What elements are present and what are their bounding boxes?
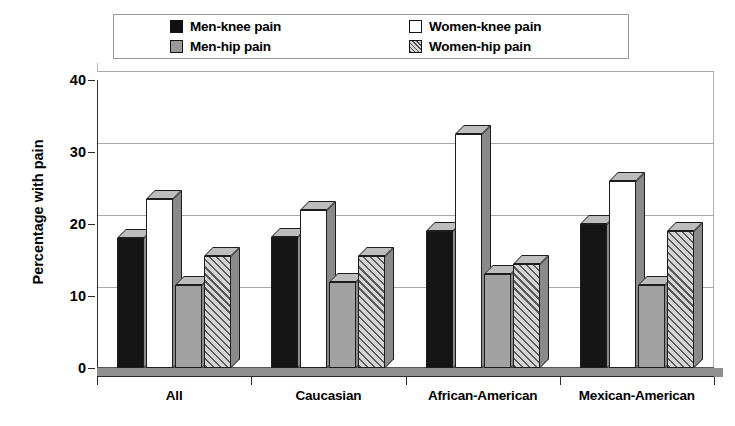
- bar-face: [358, 256, 385, 368]
- chart-legend: Men-knee pain Women-knee pain Men-hip pa…: [113, 14, 629, 59]
- bar-face: [667, 231, 694, 368]
- bar: [146, 199, 173, 368]
- hatched-square-swatch-icon: [409, 40, 422, 53]
- bar: [204, 256, 231, 368]
- bar-chart: Men-knee pain Women-knee pain Men-hip pa…: [0, 0, 735, 426]
- x-axis-label: All: [97, 388, 251, 412]
- bar-group: [406, 80, 560, 368]
- bar-face: [609, 181, 636, 368]
- legend-item-men-hip-pain: Men-hip pain: [114, 37, 371, 57]
- bar: [513, 264, 540, 368]
- gray-square-swatch-icon: [170, 40, 183, 53]
- bar: [329, 282, 356, 368]
- x-axis-label: Mexican-American: [560, 388, 714, 412]
- x-axis-tickmark: [560, 377, 561, 385]
- bar: [609, 181, 636, 368]
- y-axis-title: Percentage with pain: [30, 82, 46, 342]
- legend-label: Men-hip pain: [190, 39, 271, 54]
- bar-face: [638, 285, 665, 368]
- white-square-swatch-icon: [409, 20, 422, 33]
- bar-face: [484, 274, 511, 368]
- y-axis-tick-label: 0: [78, 360, 97, 376]
- gridline: [97, 71, 714, 72]
- y-axis-tick-label: 10: [70, 288, 97, 304]
- bar: [638, 285, 665, 368]
- x-axis-tickmark: [406, 377, 407, 385]
- black-square-swatch-icon: [170, 20, 183, 33]
- x-axis-tickmark: [714, 377, 715, 385]
- bar: [426, 231, 453, 368]
- bar-group: [560, 80, 714, 368]
- x-axis-tickmark: [251, 377, 252, 385]
- bar: [117, 238, 144, 368]
- x-axis-label: African-American: [406, 388, 560, 412]
- x-axis-tickmark: [97, 377, 98, 385]
- bar: [358, 256, 385, 368]
- x-axis-label: Caucasian: [251, 388, 405, 412]
- bar: [484, 274, 511, 368]
- legend-item-women-knee-pain: Women-knee pain: [371, 17, 628, 37]
- bar-face: [175, 285, 202, 368]
- bar: [667, 231, 694, 368]
- legend-label: Women-hip pain: [429, 39, 531, 54]
- legend-item-men-knee-pain: Men-knee pain: [114, 17, 371, 37]
- bar: [175, 285, 202, 368]
- bar-face: [455, 134, 482, 368]
- y-axis-tick-label: 40: [70, 72, 97, 88]
- x-axis-tickmarks: [97, 377, 714, 385]
- bar-face: [513, 264, 540, 368]
- legend-label: Men-knee pain: [190, 19, 281, 34]
- x-axis-labels: AllCaucasianAfrican-AmericanMexican-Amer…: [97, 388, 714, 412]
- bar-face: [117, 238, 144, 368]
- y-axis-tick-label: 30: [70, 144, 97, 160]
- bar-side: [385, 247, 394, 368]
- bar-side: [231, 247, 240, 368]
- bar-face: [300, 210, 327, 368]
- plot-area: 010203040: [97, 80, 714, 377]
- bar-face: [146, 199, 173, 368]
- bar-face: [271, 237, 298, 368]
- bar-face: [204, 256, 231, 368]
- bar-groups: [97, 80, 714, 368]
- bar-face: [426, 231, 453, 368]
- bar: [580, 224, 607, 368]
- bar: [300, 210, 327, 368]
- bar-side: [540, 255, 549, 368]
- legend-label: Women-knee pain: [429, 19, 541, 34]
- bar-side: [694, 222, 703, 368]
- bar: [271, 237, 298, 368]
- bar-face: [329, 282, 356, 368]
- y-axis-tick-label: 20: [70, 216, 97, 232]
- bar-group: [251, 80, 405, 368]
- legend-item-women-hip-pain: Women-hip pain: [371, 37, 628, 57]
- bar: [455, 134, 482, 368]
- bar-group: [97, 80, 251, 368]
- bar-face: [580, 224, 607, 368]
